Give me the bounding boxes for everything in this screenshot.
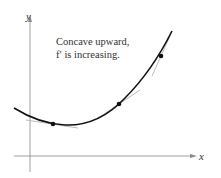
point-3 (159, 54, 164, 59)
point-2 (117, 102, 122, 107)
point-1 (51, 122, 56, 127)
annotation-line-2: f′ is increasing. (56, 49, 120, 60)
y-axis-label: y (25, 10, 31, 22)
tangent-points (51, 54, 164, 127)
axes: y x (14, 10, 204, 172)
x-axis-label: x (198, 150, 204, 162)
annotation-line-1: Concave upward, (56, 36, 129, 47)
x-axis-arrow-icon (190, 154, 197, 158)
concavity-diagram: y x Concave upward, f′ is increasing. (0, 0, 221, 178)
